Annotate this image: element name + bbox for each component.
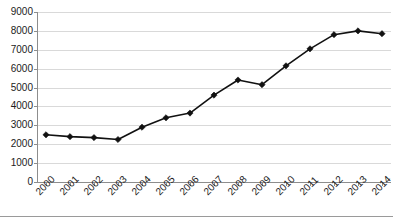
data-point-marker — [379, 31, 385, 37]
data-point-marker — [163, 115, 169, 121]
line-chart: 0100020003000400050006000700080009000 20… — [0, 0, 393, 217]
data-point-marker — [67, 134, 73, 140]
series-markers — [43, 28, 385, 143]
data-point-marker — [91, 135, 97, 141]
series-line — [46, 31, 382, 140]
data-point-marker — [139, 124, 145, 130]
data-point-marker — [355, 28, 361, 34]
data-series — [0, 0, 393, 217]
data-point-marker — [43, 132, 49, 138]
data-point-marker — [115, 136, 121, 142]
